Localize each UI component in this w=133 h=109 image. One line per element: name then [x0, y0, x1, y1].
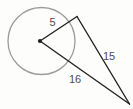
- secant-label: 16: [69, 73, 81, 85]
- radius-label: 5: [49, 16, 55, 28]
- radius-segment: [40, 17, 77, 42]
- geometry-figure: 5 15 16: [0, 0, 133, 109]
- tangent-label: 15: [103, 50, 115, 62]
- tangent-circle-diagram: 5 15 16: [0, 0, 133, 109]
